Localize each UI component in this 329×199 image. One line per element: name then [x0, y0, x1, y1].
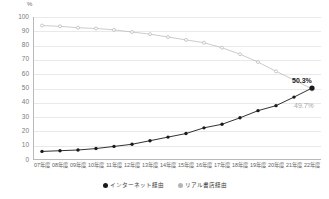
legend-label-internet: インターネット経由: [110, 183, 164, 189]
data-point-marker: [185, 38, 188, 41]
series-line: [42, 88, 312, 151]
data-point-marker: [58, 149, 61, 152]
data-point-marker: [131, 31, 134, 34]
data-point-marker: [41, 24, 44, 27]
data-point-marker: [77, 26, 80, 29]
data-point-marker: [203, 41, 206, 44]
legend-item-internet[interactable]: インターネット経由: [103, 183, 164, 189]
data-point-marker: [238, 116, 241, 119]
data-point-marker: [274, 104, 277, 107]
data-point-marker: [76, 148, 79, 151]
annotation-internet-value: 50.3%: [292, 77, 312, 84]
data-point-marker: [221, 46, 224, 49]
data-point-marker: [202, 126, 205, 129]
data-point-marker: [239, 53, 242, 56]
data-point-marker: [167, 36, 170, 39]
data-point-marker: [309, 85, 314, 90]
data-point-marker: [256, 109, 259, 112]
legend-label-bookstore: リアル書店経由: [185, 183, 227, 189]
legend-item-bookstore[interactable]: リアル書店経由: [178, 183, 227, 189]
data-point-marker: [94, 147, 97, 150]
data-point-marker: [257, 61, 260, 64]
data-point-marker: [184, 132, 187, 135]
annotation-bookstore-value: 49.7%: [294, 102, 314, 109]
data-point-marker: [148, 139, 151, 142]
data-point-marker: [59, 25, 62, 28]
data-point-marker: [220, 123, 223, 126]
data-point-marker: [113, 28, 116, 31]
data-point-marker: [292, 95, 295, 98]
line-chart: % 0102030405060708090100 07年度08年度09年度10年…: [0, 0, 329, 199]
data-point-marker: [112, 145, 115, 148]
chart-legend: インターネット経由 リアル書店経由: [0, 183, 329, 189]
series-line: [42, 26, 312, 89]
data-point-marker: [149, 33, 152, 36]
data-point-marker: [40, 150, 43, 153]
data-point-marker: [130, 143, 133, 146]
legend-marker-icon: [103, 183, 108, 188]
series-layer: [0, 0, 329, 199]
data-point-marker: [275, 70, 278, 73]
data-point-marker: [166, 135, 169, 138]
data-point-marker: [95, 27, 98, 30]
legend-marker-icon: [178, 183, 183, 188]
